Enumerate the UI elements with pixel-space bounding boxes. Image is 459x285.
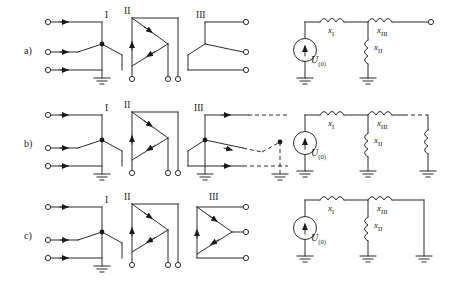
diagram-canvas [0, 0, 459, 285]
row-c-equivalent-circuit [294, 197, 433, 263]
row-c-sublabel-II: II [124, 193, 130, 203]
row-a-sublabel-III: III [196, 11, 206, 21]
row-b-label-xII: xII [374, 136, 382, 147]
row-label-b: b) [24, 139, 32, 149]
row-c-sublabel-III: III [209, 193, 219, 203]
row-c-label-xI: xI [328, 204, 334, 215]
row-a-sublabel-II: II [124, 7, 130, 17]
row-c-block-I [45, 204, 122, 272]
row-label-c: c) [24, 231, 32, 241]
row-c-source-label: ̇U(0) [311, 233, 326, 246]
row-c-block-III [197, 204, 249, 260]
row-c-group [45, 197, 432, 273]
row-b-label-xIII: xIII [377, 119, 388, 130]
row-c-label-xIII: xIII [377, 204, 388, 215]
row-a-equivalent-circuit [294, 19, 434, 85]
row-b-sublabel-II: II [124, 101, 130, 111]
row-a-block-II [129, 18, 180, 82]
row-b-block-I [45, 112, 122, 180]
row-a-label-xIII: xIII [377, 26, 388, 37]
row-b-equivalent-circuit [294, 112, 437, 178]
row-label-a: a) [24, 46, 32, 56]
row-a-source-label: ̇U(0) [311, 55, 326, 68]
row-a-block-I [45, 19, 122, 84]
figure-circuit-diagram: a) b) c) I II III I II III I II III xI x… [0, 0, 459, 285]
row-b-block-III [188, 115, 288, 180]
row-b-sublabel-III: III [194, 104, 204, 114]
row-b-label-xI: xI [328, 119, 334, 130]
row-b-block-II [129, 112, 180, 176]
row-a-sublabel-I: I [105, 11, 108, 21]
row-c-block-II [129, 204, 180, 268]
row-a-label-xII: xII [374, 43, 382, 54]
row-a-block-III [188, 19, 249, 72]
row-c-sublabel-I: I [105, 196, 108, 206]
row-b-source-label: ̇U(0) [311, 148, 326, 161]
row-b-sublabel-I: I [105, 104, 108, 114]
row-c-label-xII: xII [374, 221, 382, 232]
row-a-label-xI: xI [328, 26, 334, 37]
